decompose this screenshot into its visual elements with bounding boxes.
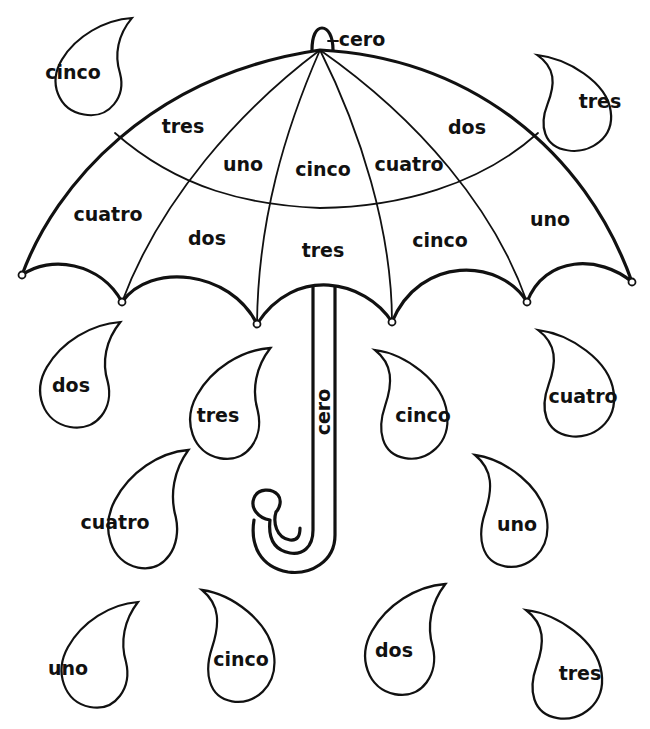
raindrop: dos xyxy=(365,584,445,695)
canopy-segment-label: cuatro xyxy=(374,153,443,175)
raindrop-label: tres xyxy=(197,404,240,426)
canopy-segment-label: tres xyxy=(162,115,205,137)
raindrop: cuatro xyxy=(538,330,618,437)
raindrop: uno xyxy=(48,602,138,708)
umbrella-knob xyxy=(312,28,333,50)
handle-label: cero xyxy=(312,389,334,436)
canopy-tip xyxy=(524,299,531,306)
raindrop: cinco xyxy=(45,18,132,115)
umbrella-rib xyxy=(320,50,392,322)
raindrop-label: tres xyxy=(579,90,622,112)
canopy-tip xyxy=(254,321,261,328)
umbrella-rib xyxy=(257,50,320,324)
canopy-segment-label: uno xyxy=(530,208,570,230)
raindrop-label: uno xyxy=(48,657,88,679)
raindrop-label: dos xyxy=(375,639,413,661)
raindrop-label: cuatro xyxy=(548,385,617,407)
raindrop: dos xyxy=(40,322,120,428)
raindrop-label: uno xyxy=(497,513,537,535)
canopy-tip xyxy=(19,272,26,279)
raindrops: cinco tres dos tres cinco cuatro xyxy=(40,18,621,719)
coloring-page: cero cero tres uno cinco cuatro dos cuat… xyxy=(0,0,650,729)
raindrop: tres xyxy=(537,55,621,151)
raindrop-label: cuatro xyxy=(80,511,149,533)
canopy-segment-label: uno xyxy=(223,153,263,175)
raindrop-label: dos xyxy=(52,374,90,396)
raindrop: cuatro xyxy=(80,450,188,568)
raindrop: uno xyxy=(475,455,547,567)
canopy-segment-label: dos xyxy=(188,227,226,249)
canopy-tip xyxy=(389,319,396,326)
raindrop: cinco xyxy=(375,350,451,459)
raindrop: tres xyxy=(190,348,270,459)
raindrop-label: cinco xyxy=(213,648,269,670)
umbrella xyxy=(19,28,636,572)
umbrella-rib xyxy=(320,50,527,302)
canopy-segment-label: cuatro xyxy=(73,203,142,225)
raindrop-label: cinco xyxy=(45,61,101,83)
umbrella-labels: cero cero tres uno cinco cuatro dos cuat… xyxy=(73,28,570,436)
knob-label: cero xyxy=(339,28,386,50)
raindrop-label: tres xyxy=(559,662,602,684)
raindrop-label: cinco xyxy=(395,404,451,426)
canopy-segment-label: cinco xyxy=(412,229,468,251)
canopy-tip xyxy=(629,279,636,286)
umbrella-rib xyxy=(122,50,320,302)
canopy-segment-label: tres xyxy=(302,239,345,261)
raindrop: cinco xyxy=(202,590,274,702)
canopy-segment-label: dos xyxy=(448,116,486,138)
canopy-tip xyxy=(119,299,126,306)
canopy-segment-label: cinco xyxy=(295,158,351,180)
raindrop: tres xyxy=(526,610,602,719)
